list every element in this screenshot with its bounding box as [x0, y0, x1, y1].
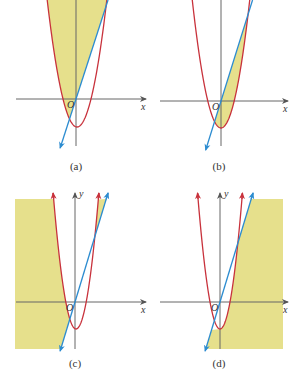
- line-graph: [206, 0, 253, 150]
- x-axis-label: x: [282, 304, 288, 315]
- origin-label: O: [67, 99, 74, 110]
- panel-caption: (a): [70, 160, 83, 173]
- panel-caption: (b): [213, 160, 226, 173]
- panel-c: Oxy(c): [15, 188, 146, 370]
- x-axis-label: x: [140, 304, 146, 315]
- parabola-arrow-left-icon: [198, 193, 199, 199]
- y-axis-label: y: [223, 188, 229, 199]
- x-axis-label: x: [282, 103, 288, 114]
- shaded-region: [47, 0, 107, 119]
- line-arrow-top-icon: [106, 193, 108, 199]
- panel-d: Oxy(d): [160, 188, 288, 370]
- parabola-arrow-right-icon: [242, 193, 243, 199]
- origin-label: O: [212, 101, 219, 112]
- x-axis-label: x: [140, 101, 146, 112]
- line-graph: [60, 193, 108, 351]
- parabola-arrow-right-icon: [98, 193, 99, 199]
- figure-canvas: Ox(a) Ox(b) Oxy(c) Oxy(d): [0, 0, 304, 384]
- origin-label: O: [211, 302, 218, 313]
- line-arrow-top-icon: [251, 193, 253, 199]
- panel-b: Ox(b): [160, 0, 288, 173]
- origin-label: O: [66, 302, 73, 313]
- y-axis-label: y: [78, 188, 84, 199]
- panel-caption: (d): [213, 357, 226, 370]
- panel-a: Ox(a): [16, 0, 146, 173]
- parabola-arrow-left-icon: [53, 193, 54, 199]
- panel-caption: (c): [69, 357, 82, 370]
